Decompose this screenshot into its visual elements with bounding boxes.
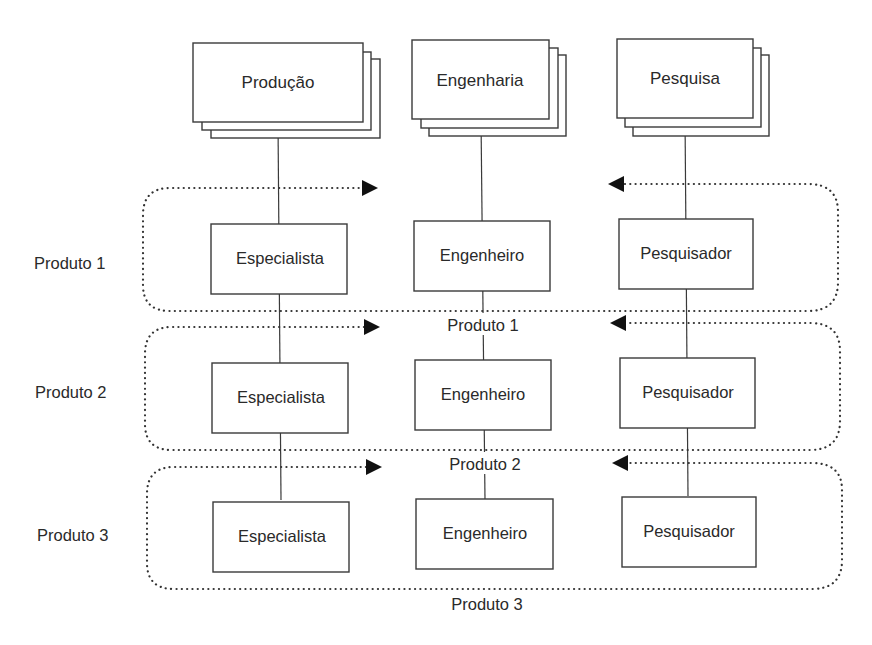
- research-connector-line: [685, 115, 688, 496]
- arrow-left-icon: [608, 176, 624, 192]
- row-product-3-roles: Especialista Engenheiro Pesquisador: [213, 497, 756, 572]
- arrow-right-icon: [364, 319, 380, 335]
- arrow-right-icon: [362, 180, 378, 196]
- department-production: Produção: [193, 43, 380, 138]
- department-label: Engenharia: [437, 71, 525, 90]
- role-label: Engenheiro: [441, 385, 525, 403]
- product-3-loop-label: Produto 3: [451, 595, 523, 613]
- role-label: Especialista: [237, 388, 326, 406]
- role-label: Especialista: [236, 249, 325, 267]
- product-1-loop-label: Produto 1: [447, 316, 519, 334]
- product-2-side-label: Produto 2: [35, 383, 107, 401]
- role-label: Especialista: [238, 527, 327, 545]
- product-2-loop-label: Produto 2: [449, 455, 521, 473]
- department-research: Pesquisa: [617, 39, 769, 136]
- row-product-1-roles: Especialista Engenheiro Pesquisador: [211, 219, 753, 294]
- role-label: Pesquisador: [642, 383, 734, 401]
- department-label: Pesquisa: [650, 69, 720, 88]
- arrow-left-icon: [612, 455, 628, 471]
- role-label: Pesquisador: [640, 244, 732, 262]
- row-product-2-roles: Especialista Engenheiro Pesquisador: [212, 358, 755, 433]
- vertical-connectors: [278, 115, 688, 500]
- product-3-side-label: Produto 3: [37, 526, 109, 544]
- role-label: Pesquisador: [643, 522, 735, 540]
- department-label: Produção: [242, 73, 315, 92]
- role-label: Engenheiro: [443, 524, 527, 542]
- arrow-left-icon: [610, 315, 626, 331]
- product-1-side-label: Produto 1: [34, 254, 106, 272]
- department-engineering: Engenharia: [412, 40, 566, 136]
- engineering-connector-line: [481, 118, 485, 500]
- arrow-right-icon: [366, 459, 382, 475]
- role-label: Engenheiro: [440, 246, 524, 264]
- matrix-organization-diagram: Produção Engenharia Pesquisa Especialist…: [0, 0, 872, 645]
